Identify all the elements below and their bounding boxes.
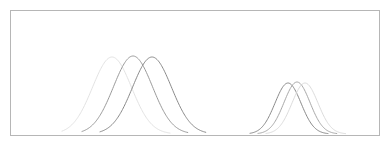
curve-left-curve-3 — [100, 57, 206, 132]
curve-right-curve-2 — [258, 82, 337, 134]
curve-right-curve-3 — [266, 83, 346, 134]
curve-series-group — [62, 56, 346, 134]
curve-left-curve-1 — [62, 57, 170, 133]
chart-canvas — [0, 0, 388, 145]
gaussian-curves-plot — [0, 0, 388, 145]
